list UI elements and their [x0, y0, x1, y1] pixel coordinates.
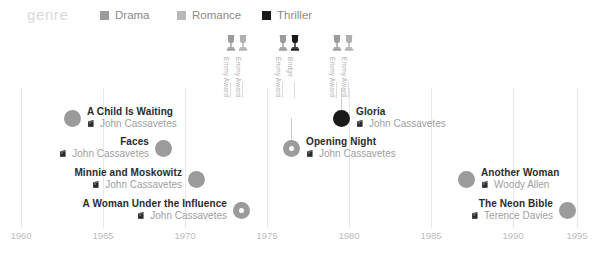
- legend-swatch-icon: [100, 11, 109, 20]
- trophy-icon: [288, 34, 302, 54]
- legend-title: genre: [27, 6, 68, 23]
- genre-dot-icon: [458, 171, 475, 188]
- trophy-icon: [236, 34, 250, 54]
- genre-dot-icon: [283, 140, 300, 157]
- award-label: Bridge: [287, 57, 294, 77]
- axis-tick-label: 1975: [256, 230, 277, 241]
- axis-tick-label: 1965: [92, 230, 113, 241]
- film-text: A Child Is WaitingJohn Cassavetes: [87, 106, 177, 130]
- award-label: Emmy Award: [329, 57, 336, 97]
- genre-dot-icon: [64, 110, 81, 127]
- genre-dot-icon: [333, 110, 350, 127]
- legend-item-drama[interactable]: Drama: [100, 9, 150, 21]
- clapperboard-icon: [356, 119, 365, 128]
- film-director: John Cassavetes: [319, 148, 396, 160]
- film-marker-dot[interactable]: [559, 202, 576, 219]
- plot-area: 19601965197019751980198519901995 Emmy Aw…: [0, 30, 596, 258]
- film-marker-dot[interactable]: [64, 110, 81, 127]
- clapperboard-icon: [59, 149, 68, 158]
- award-stem: [294, 82, 295, 98]
- award-label: Emmy Award: [341, 57, 348, 97]
- trophy-icon: [342, 34, 356, 54]
- film-director-line: John Cassavetes: [306, 148, 396, 160]
- film-text: Another WomanWoody Allen: [481, 167, 559, 191]
- film-director-line: Terence Davies: [471, 210, 553, 222]
- film-director: Woody Allen: [494, 179, 549, 191]
- genre-dot-icon: [188, 171, 205, 188]
- award-stem: [348, 82, 349, 98]
- genre-dot-icon: [155, 140, 172, 157]
- genre-dot-icon: [559, 202, 576, 219]
- axis-tick-label: 1960: [10, 230, 31, 241]
- film-marker-dot[interactable]: [333, 110, 350, 127]
- film-title: Minnie and Moskowitz: [74, 167, 182, 179]
- timeline-chart: genre DramaRomanceThriller 1960196519701…: [0, 0, 596, 258]
- axis-tick-label: 1985: [420, 230, 441, 241]
- axis-tick-label: 1980: [338, 230, 359, 241]
- film-title: Opening Night: [306, 136, 376, 148]
- film-title: Gloria: [356, 106, 386, 118]
- film-marker-dot[interactable]: [283, 140, 300, 157]
- film-director: Terence Davies: [484, 210, 553, 222]
- film-entry[interactable]: FacesJohn Cassavetes: [0, 134, 172, 162]
- clapperboard-icon: [481, 180, 490, 189]
- film-text: FacesJohn Cassavetes: [59, 136, 149, 160]
- film-text: The Neon BibleTerence Davies: [471, 198, 553, 222]
- film-text: Minnie and MoskowitzJohn Cassavetes: [74, 167, 182, 191]
- legend-item-thriller[interactable]: Thriller: [262, 9, 312, 21]
- film-marker-dot[interactable]: [188, 171, 205, 188]
- axis-tick-label: 1990: [502, 230, 523, 241]
- marker-leader-line: [341, 88, 342, 110]
- gridline: [577, 88, 578, 228]
- film-director: John Cassavetes: [369, 118, 446, 130]
- film-director-line: John Cassavetes: [87, 118, 177, 130]
- film-title: Faces: [120, 136, 149, 148]
- legend-item-romance[interactable]: Romance: [177, 9, 241, 21]
- legend: genre DramaRomanceThriller: [0, 0, 596, 30]
- axis-tick-label: 1995: [566, 230, 587, 241]
- film-director-line: John Cassavetes: [59, 148, 149, 160]
- award-marker[interactable]: Emmy Award: [336, 34, 362, 108]
- film-title: Another Woman: [481, 167, 559, 179]
- film-entry[interactable]: Minnie and MoskowitzJohn Cassavetes: [0, 165, 205, 193]
- film-entry[interactable]: The Neon BibleTerence Davies: [0, 196, 576, 224]
- film-text: Opening NightJohn Cassavetes: [306, 136, 396, 160]
- clapperboard-icon: [471, 211, 480, 220]
- film-director-line: John Cassavetes: [356, 118, 446, 130]
- film-title: A Child Is Waiting: [87, 106, 173, 118]
- award-marker[interactable]: Emmy Award: [230, 34, 256, 108]
- film-director-line: John Cassavetes: [92, 179, 182, 191]
- film-text: GloriaJohn Cassavetes: [356, 106, 446, 130]
- clapperboard-icon: [87, 119, 96, 128]
- film-title: The Neon Bible: [479, 198, 553, 210]
- award-marker[interactable]: Bridge: [282, 34, 308, 108]
- film-entry[interactable]: Another WomanWoody Allen: [458, 165, 559, 193]
- award-stem: [242, 82, 243, 98]
- film-director: John Cassavetes: [105, 179, 182, 191]
- film-entry[interactable]: Opening NightJohn Cassavetes: [283, 134, 396, 162]
- film-marker-dot[interactable]: [155, 140, 172, 157]
- legend-swatch-icon: [262, 11, 271, 20]
- axis-tick-label: 1970: [174, 230, 195, 241]
- legend-swatch-icon: [177, 11, 186, 20]
- legend-item-label: Drama: [115, 9, 150, 21]
- award-label: Emmy Award: [275, 57, 282, 97]
- clapperboard-icon: [306, 149, 315, 158]
- film-director-line: Woody Allen: [481, 179, 549, 191]
- award-label: Emmy Award: [223, 57, 230, 97]
- award-label: Emmy Award: [235, 57, 242, 97]
- film-director: John Cassavetes: [72, 148, 149, 160]
- legend-item-label: Romance: [192, 9, 241, 21]
- film-entry[interactable]: GloriaJohn Cassavetes: [333, 104, 446, 132]
- legend-item-label: Thriller: [277, 9, 312, 21]
- marker-leader-line: [291, 118, 292, 140]
- film-marker-dot[interactable]: [458, 171, 475, 188]
- clapperboard-icon: [92, 180, 101, 189]
- film-director: John Cassavetes: [100, 118, 177, 130]
- film-entry[interactable]: A Child Is WaitingJohn Cassavetes: [64, 104, 177, 132]
